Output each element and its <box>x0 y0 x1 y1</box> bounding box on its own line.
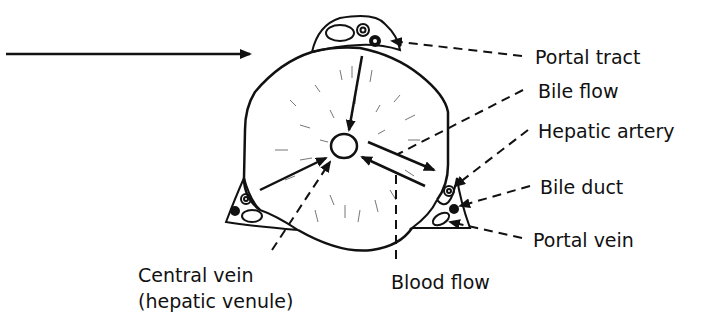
label-hepatic-artery: Hepatic artery <box>538 120 675 142</box>
portal-tract-bottom-right <box>412 178 470 228</box>
label-central-vein-sub: (hepatic venule) <box>138 290 293 312</box>
label-portal-tract: Portal tract <box>535 46 640 68</box>
leader-lines <box>272 41 530 262</box>
label-bile-flow: Bile flow <box>538 80 618 102</box>
portal-tract-bottom-left <box>226 178 298 230</box>
central-vein <box>331 134 357 158</box>
label-central-vein: Central vein <box>138 264 253 286</box>
label-portal-vein: Portal vein <box>533 229 634 251</box>
label-blood-flow: Blood flow <box>391 271 490 293</box>
label-bile-duct: Bile duct <box>540 176 623 198</box>
bile-flow-arrow <box>368 142 434 170</box>
blood-flow-arrows <box>260 56 425 190</box>
